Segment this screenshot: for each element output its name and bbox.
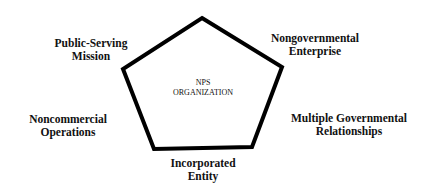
label-line2: Mission (46, 50, 136, 63)
center-label-line2: ORGANIZATION (166, 88, 240, 98)
label-line1: Public-Serving (46, 37, 136, 50)
label-noncommercial-operations: Noncommercial Operations (20, 113, 116, 139)
label-multiple-governmental-relationships: Multiple Governmental Relationships (282, 112, 416, 138)
label-incorporated-entity: Incorporated Entity (158, 157, 248, 183)
nps-organization-diagram: NPS ORGANIZATION Public-Serving Mission … (0, 0, 432, 184)
label-line2: Operations (20, 126, 116, 139)
center-label-line1: NPS (166, 78, 240, 88)
label-line2: Enterprise (262, 45, 368, 58)
label-nongovernmental-enterprise: Nongovernmental Enterprise (262, 32, 368, 58)
label-line2: Relationships (282, 125, 416, 138)
label-line1: Noncommercial (20, 113, 116, 126)
label-line1: Incorporated (158, 157, 248, 170)
label-public-serving-mission: Public-Serving Mission (46, 37, 136, 63)
label-line1: Multiple Governmental (282, 112, 416, 125)
center-label-nps-organization: NPS ORGANIZATION (166, 78, 240, 98)
label-line2: Entity (158, 170, 248, 183)
label-line1: Nongovernmental (262, 32, 368, 45)
